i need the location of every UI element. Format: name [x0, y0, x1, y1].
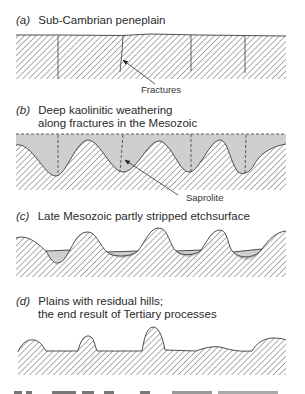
etchplain-evolution-diagram: (a) Sub-Cambrian peneplain Fractures (b)… [0, 0, 305, 394]
panel-d: (d) Plains with residual hills; the end … [16, 295, 286, 375]
panel-b-title-line-2: along fractures in the Mesozoic [38, 117, 197, 129]
saprolite-label: Saprolite [186, 192, 224, 203]
bedrock-a [16, 34, 286, 79]
panel-d-title-line-1: (d) Plains with residual hills; [16, 295, 163, 307]
panel-a: (a) Sub-Cambrian peneplain Fractures [16, 14, 286, 95]
panel-c: (c) Late Mesozoic partly stripped etchsu… [16, 210, 286, 277]
panel-d-title-line-2: the end result of Tertiary processes [38, 308, 217, 320]
fractures-label: Fractures [141, 84, 181, 95]
panel-b-title-line-1: (b) Deep kaolinitic weathering [16, 104, 173, 116]
panel-a-title: (a) Sub-Cambrian peneplain [16, 14, 165, 26]
panel-c-title: (c) Late Mesozoic partly stripped etchsu… [16, 210, 250, 222]
panel-b: (b) Deep kaolinitic weathering along fra… [16, 104, 286, 203]
